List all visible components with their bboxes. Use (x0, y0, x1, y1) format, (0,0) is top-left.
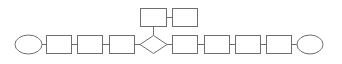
process-step-7 (267, 36, 292, 54)
process-step-2 (78, 36, 103, 54)
branch-step-2 (173, 9, 198, 27)
process-step-6 (236, 36, 261, 54)
process-step-1 (47, 36, 72, 54)
end-node (297, 35, 323, 54)
start-node (15, 35, 42, 54)
nodes (15, 9, 323, 55)
branch-step-1 (141, 9, 167, 27)
process-step-3 (110, 36, 135, 54)
process-step-5 (205, 36, 230, 54)
process-step-4 (173, 36, 198, 54)
flowchart-diagram (0, 0, 342, 64)
decision-node (140, 36, 167, 54)
